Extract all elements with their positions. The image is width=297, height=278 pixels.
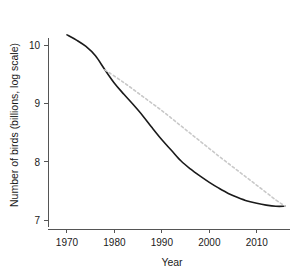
y-axis-title: Number of birds (billions, log scale) [8, 43, 20, 207]
y-axis: 78910 [29, 38, 48, 227]
y-axis-tick-label: 10 [29, 40, 41, 51]
chart-series-group [67, 35, 285, 207]
chart-canvas: 78910 19701980199020002010 Year Number o… [0, 0, 297, 278]
x-axis: 19701980199020002010 [48, 229, 290, 248]
x-axis-tick-label: 1970 [56, 237, 79, 248]
y-axis-tick-label: 9 [34, 98, 40, 109]
x-axis-title: Year [161, 256, 183, 268]
chart-line-counterfactual [105, 70, 285, 206]
x-axis-tick-label: 1980 [103, 237, 126, 248]
chart-figure: 78910 19701980199020002010 Year Number o… [0, 0, 297, 278]
y-axis-tick-label: 7 [34, 215, 40, 226]
chart-line-observed [67, 35, 285, 207]
x-axis-tick-label: 1990 [151, 237, 174, 248]
x-axis-tick-label: 2010 [246, 237, 269, 248]
x-axis-tick-label: 2000 [198, 237, 221, 248]
y-axis-tick-label: 8 [34, 157, 40, 168]
